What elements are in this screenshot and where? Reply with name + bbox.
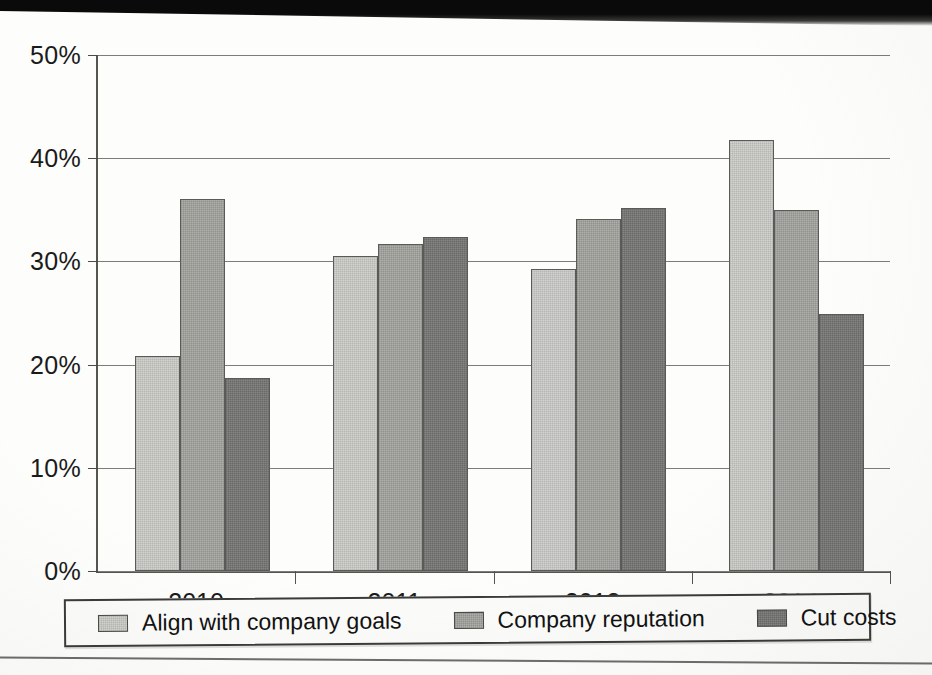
y-axis-label: 10% [30, 453, 81, 482]
chart-legend: Align with company goalsCompany reputati… [64, 593, 871, 647]
bar-group-2012 [531, 55, 666, 571]
y-axis-label: 40% [30, 144, 81, 173]
legend-item-company-reputation[interactable]: Company reputation [453, 605, 704, 634]
bar-group-2010 [135, 55, 270, 571]
bar-2012-company-reputation [576, 219, 621, 571]
y-axis-label: 30% [30, 247, 81, 276]
bar-2011-cut-costs [423, 237, 468, 571]
bar-2012-align-with-company-goals [531, 269, 576, 571]
x-axis-tick [890, 571, 891, 584]
legend-swatch-company-reputation [453, 611, 483, 628]
legend-label: Company reputation [497, 605, 704, 634]
legend-label: Cut costs [801, 603, 897, 631]
scan-artifact-bottom-rule [0, 655, 932, 665]
legend-swatch-cut-costs [757, 609, 787, 626]
legend-item-align-with-company-goals[interactable]: Align with company goals [98, 607, 402, 636]
plot-area: 0%10%20%30%40%50% 2010201120122014 [97, 55, 890, 571]
bar-2012-cut-costs [621, 208, 666, 571]
bar-series-container [97, 55, 890, 571]
bar-2011-company-reputation [378, 244, 423, 571]
y-axis-label: 0% [44, 557, 81, 586]
bar-2010-company-reputation [180, 199, 225, 571]
legend-swatch-align-with-company-goals [98, 614, 128, 631]
x-axis-tick [295, 571, 296, 584]
bar-chart: 0%10%20%30%40%50% 2010201120122014 Align… [0, 26, 932, 675]
x-axis-tick [692, 571, 693, 584]
bar-2010-cut-costs [225, 378, 270, 571]
bar-2014-cut-costs [819, 314, 864, 571]
scan-artifact-top-band [0, 0, 932, 26]
x-axis-tick [494, 571, 495, 584]
legend-label: Align with company goals [142, 607, 402, 636]
y-axis-label: 20% [30, 350, 81, 379]
bar-2011-align-with-company-goals [333, 256, 378, 571]
legend-item-cut-costs[interactable]: Cut costs [757, 603, 897, 631]
bar-2010-align-with-company-goals [135, 356, 180, 571]
bar-group-2014 [729, 55, 864, 571]
bar-group-2011 [333, 55, 468, 571]
y-axis-label: 50% [30, 41, 81, 70]
legend-items: Align with company goalsCompany reputati… [66, 603, 897, 637]
bar-2014-align-with-company-goals [729, 140, 774, 571]
bar-2014-company-reputation [774, 210, 819, 571]
y-axis-tick [88, 571, 98, 572]
